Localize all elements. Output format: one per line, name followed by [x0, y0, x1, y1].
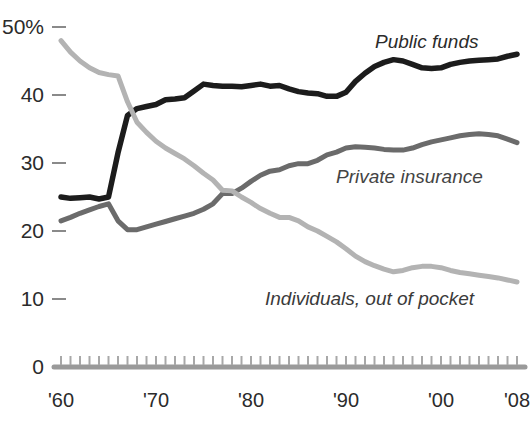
y-tick-label: 40	[21, 83, 44, 106]
x-axis-labels: '60'70'80'90'00'08	[48, 389, 530, 411]
y-axis-labels: 50%403020100	[2, 15, 44, 378]
series-label-2: Individuals, out of pocket	[265, 288, 475, 309]
x-tick-label: '00	[428, 389, 454, 411]
y-tick-label: 0	[32, 355, 44, 378]
y-axis-ticks	[52, 27, 66, 299]
x-tick-label: '60	[48, 389, 74, 411]
y-tick-label: 30	[21, 151, 44, 174]
y-tick-label: 10	[21, 287, 44, 310]
x-axis-minor-ticks	[61, 356, 517, 365]
x-tick-label: '08	[504, 389, 530, 411]
data-series-group	[61, 41, 517, 282]
y-tick-label: 20	[21, 219, 44, 242]
line-chart: 50%403020100 '60'70'80'90'00'08 Public f…	[0, 0, 531, 444]
series-label-0: Public funds	[375, 31, 479, 52]
series-label-1: Private insurance	[336, 166, 483, 187]
y-tick-label: 50%	[2, 15, 44, 38]
x-tick-label: '70	[143, 389, 169, 411]
x-tick-label: '80	[238, 389, 264, 411]
chart-container: 50%403020100 '60'70'80'90'00'08 Public f…	[0, 0, 531, 444]
x-tick-label: '90	[333, 389, 359, 411]
series-line-2	[61, 41, 517, 282]
